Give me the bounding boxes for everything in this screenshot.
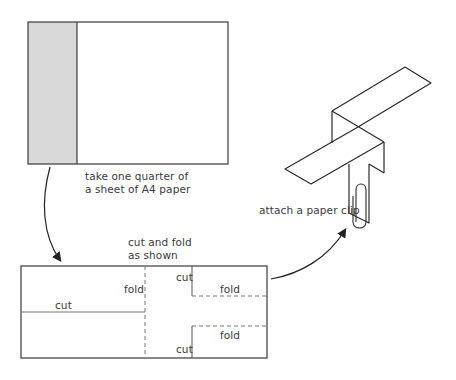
diagram-canvas xyxy=(0,0,456,380)
step1-caption-line1: take one quarter of xyxy=(85,170,188,183)
label-left-cut: cut xyxy=(55,299,72,312)
step3-caption: attach a paper clip xyxy=(259,204,360,217)
label-left-fold: fold xyxy=(124,283,144,296)
a4-quarter-sheet xyxy=(28,22,228,164)
label-top-right-fold: fold xyxy=(220,283,240,296)
step2-caption-line2: as shown xyxy=(128,249,178,262)
cut-fold-template xyxy=(21,266,267,358)
label-bottom-right-cut: cut xyxy=(176,343,193,356)
shaded-strip xyxy=(28,22,77,164)
paper-helicopter xyxy=(285,67,431,223)
step1-caption-line2: a sheet of A4 paper xyxy=(85,183,190,196)
step2-caption-line1: cut and fold xyxy=(128,236,192,249)
label-bottom-right-fold: fold xyxy=(220,329,240,342)
arrow-step1-to-step2 xyxy=(44,167,60,260)
label-top-right-cut: cut xyxy=(176,271,193,284)
arrow-step2-to-step3 xyxy=(271,230,345,279)
